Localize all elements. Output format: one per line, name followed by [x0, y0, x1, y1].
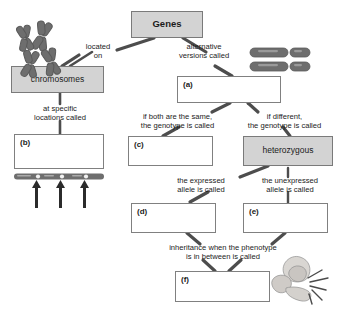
node-a-label: (a)	[183, 81, 193, 90]
chromosome-cluster-illustration	[8, 20, 88, 82]
node-heterozygous-label: heterozygous	[262, 146, 313, 155]
node-c-blank[interactable]: (c)	[128, 136, 213, 166]
locus-pointer-arrows-illustration	[14, 180, 104, 210]
node-d-blank[interactable]: (d)	[131, 203, 216, 233]
pink-flower-illustration	[266, 252, 342, 308]
concept-map-diagram: Genes chromosomes (a) (b) (c) heterozygo…	[0, 0, 344, 310]
node-genes-label: Genes	[152, 19, 181, 29]
node-c-label: (c)	[134, 141, 144, 150]
caption-the-expressed-allele-is-called: the expressed allele is called	[162, 177, 240, 195]
wire-a-to-if-different	[248, 103, 258, 112]
wire-genes-to-located-on	[117, 38, 154, 50]
node-f-blank[interactable]: (f)	[175, 271, 270, 302]
caption-if-different: if different, the genotype is called	[235, 113, 334, 131]
node-e-blank[interactable]: (e)	[243, 203, 328, 233]
caption-alternative-versions-called: alternative versions called	[161, 43, 247, 61]
node-e-label: (e)	[249, 208, 259, 217]
node-d-label: (d)	[137, 208, 147, 217]
node-b-blank[interactable]: (b)	[14, 134, 104, 169]
caption-at-specific-locations-called: at specific locations called	[19, 105, 101, 123]
wire-alternative-to-a	[215, 66, 232, 76]
caption-the-unexpressed-allele-is-called: the unexpressed allele is called	[246, 177, 334, 195]
node-heterozygous[interactable]: heterozygous	[243, 136, 333, 166]
homologous-chromosome-pair-illustration	[248, 46, 340, 76]
caption-if-both-are-the-same: if both are the same, the genotype is ca…	[128, 113, 227, 131]
wire-a-to-if-both-same	[212, 103, 230, 112]
node-genes[interactable]: Genes	[131, 11, 203, 38]
node-f-label: (f)	[181, 276, 189, 285]
node-b-label: (b)	[20, 139, 30, 148]
node-a-blank[interactable]: (a)	[177, 76, 281, 103]
